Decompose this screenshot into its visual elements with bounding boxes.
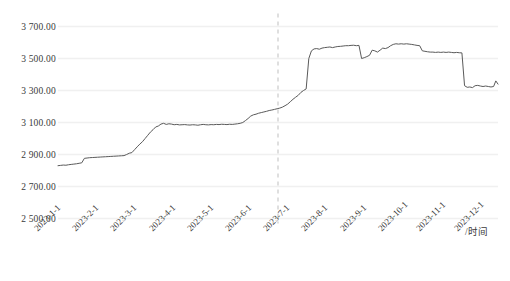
x-axis-tick-label: 2023-2-1 <box>70 202 100 232</box>
x-axis-tick-label: 2023-4-1 <box>147 202 177 232</box>
x-axis-tick-label: 2023-1-1 <box>32 202 62 232</box>
x-axis-tick-label: 2023-7-1 <box>261 202 291 232</box>
x-axis-tick-label: 2023-6-1 <box>223 202 253 232</box>
x-axis-unit-label: /时间 <box>465 227 488 237</box>
x-axis-tick-labels: 2023-1-12023-2-12023-3-12023-4-12023-5-1… <box>0 0 510 281</box>
x-axis-tick-label: 2023-11-1 <box>414 199 447 232</box>
x-axis-tick-label: 2023-10-1 <box>376 199 410 233</box>
x-axis-tick-label: 2023-3-1 <box>108 202 138 232</box>
x-axis-tick-label: 2023-9-1 <box>338 202 368 232</box>
x-axis-tick-label: 2023-8-1 <box>299 202 329 232</box>
line-chart: 2 500.002 700.002 900.003 100.003 300.00… <box>0 0 510 281</box>
x-axis-tick-label: 2023-5-1 <box>185 202 215 232</box>
